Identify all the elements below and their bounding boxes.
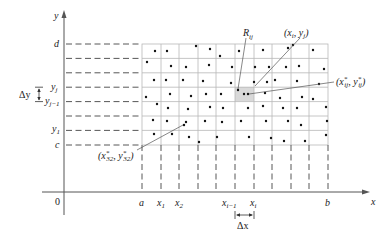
origin-label: 0 <box>55 196 60 207</box>
x-tick-x1: x1 <box>156 197 165 210</box>
corner-point-label: (xi, yj) <box>284 27 309 40</box>
x-tick-xi-1: xi−1 <box>221 197 237 210</box>
y-tick-yj: yj <box>50 81 57 94</box>
x-axis-label: x <box>370 196 376 207</box>
x-tick-x2: x2 <box>174 197 183 210</box>
y-tick-y1: y1 <box>51 123 60 136</box>
axes <box>42 10 370 215</box>
delta-x-bracket <box>235 211 254 219</box>
sample-32-label: (x*32, y*32) <box>98 149 134 163</box>
x-tick-xi: xi <box>249 197 256 210</box>
x-dashed-guides <box>142 145 328 192</box>
x-tick-b: b <box>325 197 330 208</box>
rij-label: Rij <box>242 27 253 41</box>
y-tick-yj-1: yj−1 <box>44 95 60 108</box>
y-tick-c: c <box>55 139 60 150</box>
sample-ij-label: (x*ij, y*ij) <box>336 75 366 89</box>
x-tick-a: a <box>139 197 144 208</box>
y-tick-d: d <box>54 38 60 49</box>
riemann-diagram: y x 0 d yj yj−1 y1 c Δy a x1 x2 xi−1 xi … <box>0 0 389 242</box>
y-axis-label: y <box>53 10 59 21</box>
delta-y-label: Δy <box>19 89 30 100</box>
y-dashed-guides <box>66 44 142 145</box>
delta-y-bracket <box>35 87 43 101</box>
delta-x-label: Δx <box>237 220 248 231</box>
